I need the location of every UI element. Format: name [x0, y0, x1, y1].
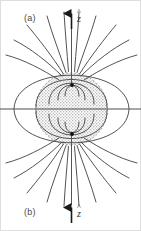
z-symbol-top: z — [77, 14, 81, 23]
figure-root: (a) (b) ^ z ^ z — [0, 0, 141, 231]
panel-label-b: (b) — [24, 207, 36, 217]
field-line-diagram-canvas — [0, 0, 141, 231]
panel-label-a: (a) — [24, 13, 36, 23]
z-symbol-bottom: z — [77, 209, 81, 218]
lower-dipole-source — [70, 132, 74, 136]
upper-dipole-source — [70, 83, 74, 87]
z-axis-label-bottom: ^ z — [77, 206, 81, 218]
z-axis-label-top: ^ z — [77, 11, 81, 23]
